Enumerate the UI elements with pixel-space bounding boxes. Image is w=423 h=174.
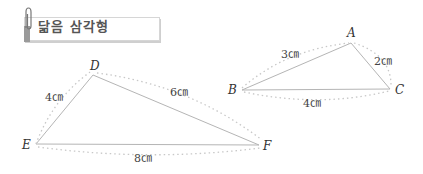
vertex-label-a: A (346, 26, 356, 40)
side-label-ab: 3㎝ (281, 48, 299, 61)
vertex-label-d: D (89, 59, 100, 73)
vertex-label-b: B (227, 83, 237, 97)
paperclip-icon (24, 8, 31, 42)
side-label-bc: 4㎝ (303, 97, 321, 110)
vertex-label-f: F (262, 139, 272, 153)
side-label-ac: 2㎝ (374, 55, 392, 68)
side-label-ef: 8㎝ (134, 152, 152, 165)
vertex-label-e: E (21, 138, 31, 152)
triangle-abc (242, 43, 391, 100)
vertex-label-c: C (395, 83, 404, 97)
side-label-df: 6㎝ (170, 86, 188, 99)
side-label-de: 4㎝ (45, 91, 63, 104)
banner-title: 닮음 삼각형 (38, 16, 109, 35)
